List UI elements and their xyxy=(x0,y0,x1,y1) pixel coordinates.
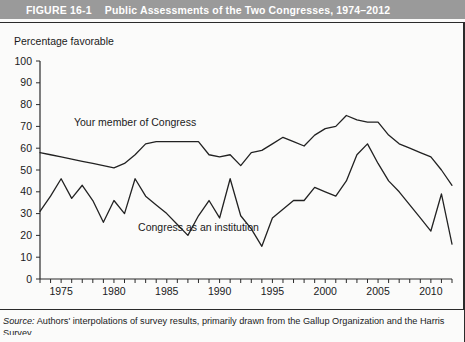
y-tick-label: 70 xyxy=(20,120,32,132)
y-axis-label: Percentage favorable xyxy=(14,35,114,47)
figure-container: FIGURE 16-1 Public Assessments of the Tw… xyxy=(0,0,465,342)
y-tick-label: 60 xyxy=(20,142,32,154)
source-note: Source: Authors' interpolations of surve… xyxy=(0,316,465,335)
x-tick-label: 2000 xyxy=(314,285,338,297)
x-tick-label: 1995 xyxy=(261,285,285,297)
y-tick-label: 90 xyxy=(20,76,32,88)
y-tick-label: 10 xyxy=(20,251,32,263)
axis-title-group: Percentage favorable xyxy=(14,35,114,47)
y-tick-label: 0 xyxy=(26,273,32,285)
y-tick-label: 100 xyxy=(14,55,32,67)
source-continuation: Survey. xyxy=(3,328,459,335)
series-annotations: Your member of CongressCongress as an in… xyxy=(74,116,259,233)
x-tick-label: 1985 xyxy=(155,285,179,297)
source-text: Authors' interpolations of survey result… xyxy=(35,316,445,326)
series-label: Your member of Congress xyxy=(74,116,196,128)
y-axis-ticks: 0102030405060708090100 xyxy=(14,55,40,285)
x-tick-label: 2005 xyxy=(366,285,390,297)
y-tick-label: 30 xyxy=(20,207,32,219)
figure-header-bar: FIGURE 16-1 Public Assessments of the Tw… xyxy=(0,0,465,19)
x-tick-label: 1990 xyxy=(208,285,232,297)
series-label: Congress as an institution xyxy=(138,221,259,233)
chart-panel: Percentage favorable 0102030405060708090… xyxy=(0,22,464,310)
figure-number-label: FIGURE 16-1 xyxy=(26,4,92,16)
source-label: Source: xyxy=(3,316,35,326)
line-chart: Percentage favorable 0102030405060708090… xyxy=(0,23,464,311)
y-tick-label: 20 xyxy=(20,229,32,241)
y-tick-label: 40 xyxy=(20,185,32,197)
x-axis-ticks: 19751980198519901995200020052010 xyxy=(40,279,452,297)
x-tick-label: 1975 xyxy=(49,285,73,297)
y-tick-label: 80 xyxy=(20,98,32,110)
x-tick-label: 2010 xyxy=(419,285,443,297)
x-tick-label: 1980 xyxy=(102,285,126,297)
figure-title: Public Assessments of the Two Congresses… xyxy=(105,4,390,16)
y-tick-label: 50 xyxy=(20,164,32,176)
